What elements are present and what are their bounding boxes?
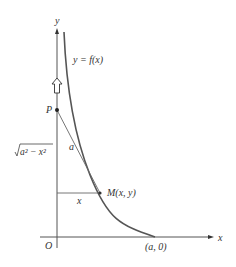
tangent-length-label: a <box>69 141 74 152</box>
tractrix-diagram: y x O y = f(x) (a, 0) P M(x, y) a x a² −… <box>0 0 236 267</box>
point-p-marker <box>55 108 59 112</box>
y-axis-label: y <box>54 15 60 26</box>
hollow-up-arrow-icon <box>52 78 62 93</box>
y-axis-arrow-icon <box>55 28 59 34</box>
vertical-length-label: a² − x² <box>15 144 53 157</box>
origin-label: O <box>45 240 52 251</box>
x-axis-arrow-icon <box>208 235 214 239</box>
point-m-marker <box>98 191 101 194</box>
horizontal-length-label: x <box>76 195 82 206</box>
x-axis-label: x <box>217 232 223 243</box>
curve-label: y = f(x) <box>72 54 104 66</box>
point-p-label: P <box>45 104 52 115</box>
sqrt-radicand: a² − x² <box>20 147 46 157</box>
tangent-segment <box>57 110 100 193</box>
endpoint-label: (a, 0) <box>145 241 167 253</box>
point-m-label: M(x, y) <box>106 187 137 199</box>
